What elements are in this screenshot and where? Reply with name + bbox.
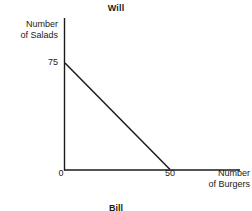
x-axis-label-line2: of Burgers (186, 179, 250, 190)
x-tick-label-50: 50 (161, 168, 179, 178)
ppf-line (65, 63, 170, 170)
x-tick-label-0: 0 (54, 168, 68, 178)
x-axis-label-line1: Number (186, 168, 250, 179)
next-chart-title-partial: Bill (0, 203, 232, 211)
x-axis-label: Number of Burgers (186, 168, 250, 190)
chart-figure: Will Number of Salads 75 0 50 Number of … (0, 0, 252, 211)
